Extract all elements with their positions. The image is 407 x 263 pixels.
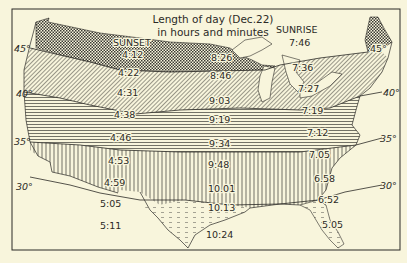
daylength-label-0: 8:26 (211, 52, 232, 63)
daylength-label-6: 10.01 (208, 183, 235, 194)
sunset-label-0: 4:12 (122, 49, 143, 60)
sunrise-header: SUNRISE (276, 24, 318, 35)
title-line-1: Length of day (Dec.22) (153, 13, 274, 25)
sunrise-label-4: 7:12 (307, 127, 328, 138)
title-line-2: in hours and minutes (157, 26, 268, 38)
daylength-label-4: 9:34 (209, 138, 230, 149)
daylength-label-1: 8:46 (210, 70, 231, 81)
sunset-label-4: 4:46 (110, 132, 131, 143)
sunset-label-7: 5:05 (100, 198, 121, 209)
sunset-label-2: 4:31 (117, 87, 138, 98)
daylength-label-3: 9:19 (209, 114, 230, 125)
lat-label-w30: 30° (16, 181, 33, 192)
lat-label-w45: 45° (14, 43, 31, 54)
sunrise-label-3: 7:19 (302, 105, 323, 116)
daylength-label-2: 9:03 (209, 95, 230, 106)
lat-label-w40: 40° (16, 88, 33, 99)
daylength-label-7: 10.13 (208, 202, 235, 213)
daylength-label-8: 10:24 (206, 229, 233, 240)
sunrise-label-7: 6.52 (318, 194, 339, 205)
sunset-label-1: 4:22 (118, 67, 139, 78)
sunrise-label-6: 6.58 (314, 173, 335, 184)
lat-label-e30: 30° (380, 180, 397, 191)
sunset-label-5: 4:53 (108, 155, 129, 166)
sunrise-label-2: 7:27 (298, 83, 319, 94)
sunset-label-6: 4:59 (104, 177, 125, 188)
lat-label-e40: 40° (383, 87, 400, 98)
sunrise-label-5: 7.05 (309, 149, 330, 160)
lake-superior (232, 37, 272, 58)
sunrise-label-0: 7:46 (289, 37, 310, 48)
sunrise-label-1: 7:36 (292, 62, 313, 73)
day-length-map: Length of day (Dec.22) in hours and minu… (0, 0, 407, 263)
sunset-label-8: 5:11 (100, 220, 121, 231)
sunrise-label-8: 5.05 (322, 219, 343, 230)
lat-label-w35: 35° (14, 136, 31, 147)
lat-label-e45: 45° (370, 43, 387, 54)
sunset-header: SUNSET (113, 37, 151, 48)
sunset-label-3: 4:38 (114, 109, 135, 120)
daylength-label-5: 9:48 (208, 159, 229, 170)
lat-label-e35: 35° (380, 133, 397, 144)
